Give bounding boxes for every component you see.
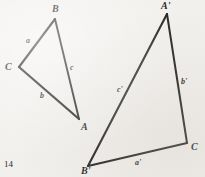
side-label-a: a (26, 37, 30, 45)
vertex-label-c: C (5, 62, 12, 72)
vertex-label-b-prime: B' (81, 166, 90, 176)
side-b-stroke (19, 67, 79, 119)
side-label-b: b (40, 92, 44, 100)
side-a-stroke (19, 19, 55, 67)
side-label-b-prime: b' (181, 78, 187, 86)
vertex-label-c-prime: C (191, 142, 198, 152)
vertex-label-a-prime: A' (161, 1, 170, 11)
side-label-c: c (70, 64, 74, 72)
figure-container: B C A a b c A' B' C a' b' c' 14 (0, 0, 205, 177)
triangle-a-prime-b-prime-c-prime-strokes (88, 14, 187, 166)
side-label-a-prime: a' (135, 159, 141, 167)
vertex-label-a: A (81, 122, 88, 132)
side-c-stroke (55, 19, 79, 119)
side-label-c-prime: c' (117, 86, 123, 94)
triangles-drawing (0, 0, 205, 177)
vertex-label-b: B (52, 4, 59, 14)
page-number: 14 (4, 160, 13, 169)
side-c-prime-stroke (88, 14, 167, 166)
